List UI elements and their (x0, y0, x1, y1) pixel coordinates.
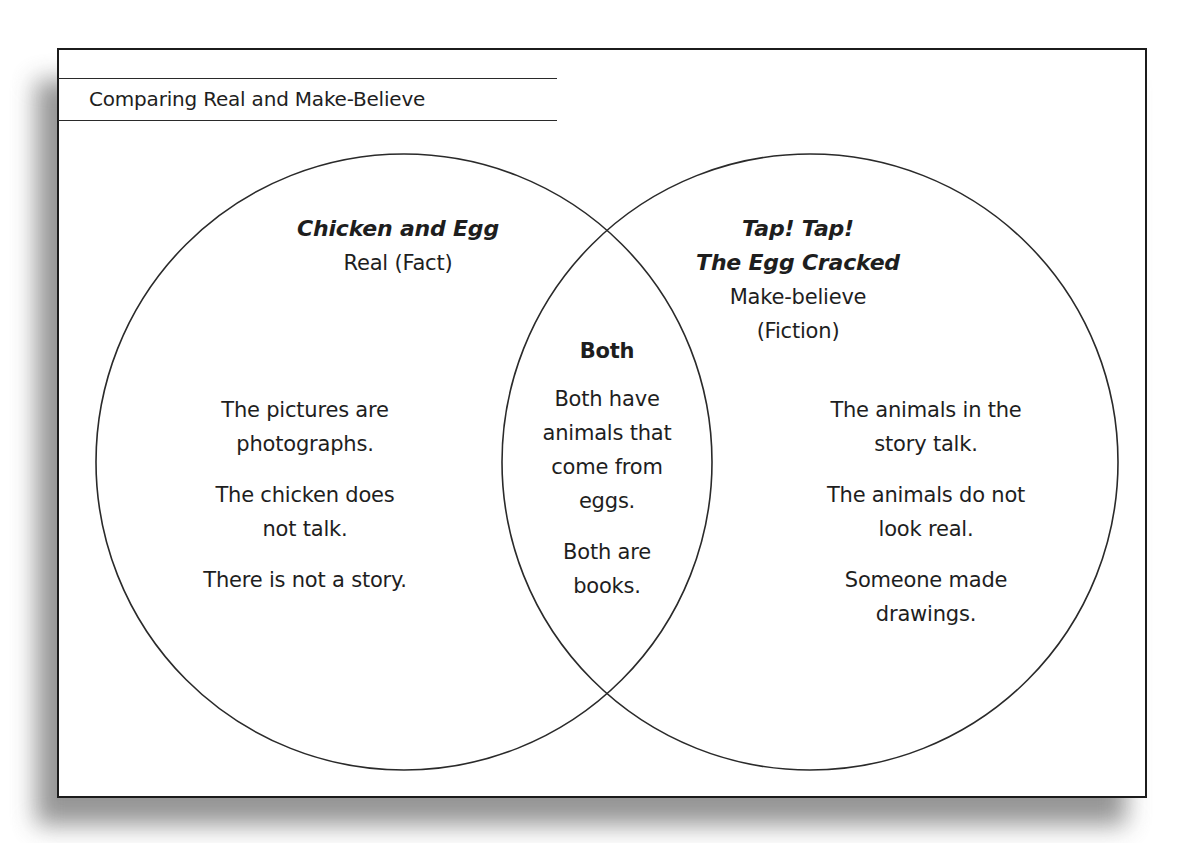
left-item-3: There is not a story. (203, 563, 406, 597)
right-book-title-line1: Tap! Tap! (696, 212, 900, 246)
right-set-header: Tap! Tap! The Egg Cracked Make-believe (… (696, 212, 900, 348)
intersection-heading: Both (542, 334, 671, 368)
left-book-title: Chicken and Egg (297, 212, 499, 246)
intersection-item-2: Both are books. (542, 535, 671, 603)
right-item-1: The animals in the story talk. (827, 393, 1025, 461)
right-set-items: The animals in the story talk. The anima… (827, 393, 1025, 648)
left-category: Real (Fact) (297, 246, 499, 280)
right-category-line1: Make-believe (696, 280, 900, 314)
right-item-2: The animals do not look real. (827, 478, 1025, 546)
right-category-line2: (Fiction) (696, 314, 900, 348)
right-book-title-line2: The Egg Cracked (696, 246, 900, 280)
intersection-set: Both Both have animals that come from eg… (542, 334, 671, 620)
left-set-header: Chicken and Egg Real (Fact) (297, 212, 499, 280)
left-set-items: The pictures are photographs. The chicke… (203, 393, 406, 614)
right-item-3: Someone made drawings. (827, 563, 1025, 631)
left-item-2: The chicken does not talk. (203, 478, 406, 546)
intersection-item-1: Both have animals that come from eggs. (542, 382, 671, 518)
left-item-1: The pictures are photographs. (203, 393, 406, 461)
